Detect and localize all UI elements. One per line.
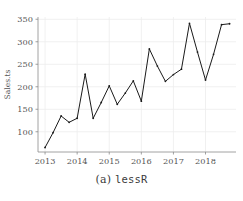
data-point bbox=[205, 79, 207, 81]
x-tick-label: 2016 bbox=[131, 156, 152, 166]
caption-prefix: (a) bbox=[95, 173, 111, 186]
data-point bbox=[156, 65, 158, 67]
data-point bbox=[197, 51, 199, 53]
y-tick-label: 300 bbox=[17, 37, 33, 47]
data-point bbox=[213, 53, 215, 55]
data-point bbox=[76, 117, 78, 119]
data-point bbox=[189, 22, 191, 24]
x-tick-label: 2013 bbox=[35, 156, 56, 166]
data-point bbox=[148, 48, 150, 50]
line-chart: 1001502002503003502013201420152016201720… bbox=[0, 0, 243, 170]
data-point bbox=[60, 115, 62, 117]
data-point bbox=[100, 102, 102, 104]
data-point bbox=[92, 117, 94, 119]
data-point bbox=[229, 23, 231, 25]
data-point bbox=[140, 100, 142, 102]
axis-titles-group: Sales.ts bbox=[3, 69, 12, 99]
x-tick-label: 2015 bbox=[99, 156, 120, 166]
data-point bbox=[173, 74, 175, 76]
y-tick-label: 250 bbox=[17, 59, 33, 69]
y-tick-label: 150 bbox=[17, 104, 33, 114]
data-point bbox=[108, 85, 110, 87]
y-tick-label: 200 bbox=[17, 82, 33, 92]
y-axis-title: Sales.ts bbox=[3, 69, 12, 99]
series-group bbox=[44, 22, 230, 148]
y-tick-label: 350 bbox=[17, 14, 33, 24]
caption-package-name: lessR bbox=[115, 173, 148, 185]
data-point bbox=[132, 80, 134, 82]
data-point bbox=[124, 92, 126, 94]
data-point bbox=[116, 103, 118, 105]
data-point bbox=[44, 147, 46, 149]
figure-container: 1001502002503003502013201420152016201720… bbox=[0, 0, 243, 201]
data-point bbox=[52, 132, 54, 134]
chart-svg: 1001502002503003502013201420152016201720… bbox=[0, 0, 243, 170]
y-tick-label: 100 bbox=[17, 127, 33, 137]
data-point bbox=[221, 24, 223, 26]
data-point bbox=[165, 80, 167, 82]
data-point bbox=[181, 68, 183, 70]
figure-caption: (a) lessR bbox=[0, 173, 243, 186]
x-tick-label: 2017 bbox=[163, 156, 184, 166]
data-point bbox=[84, 73, 86, 75]
x-tick-label: 2018 bbox=[195, 156, 216, 166]
x-tick-label: 2014 bbox=[67, 156, 88, 166]
data-point bbox=[68, 121, 70, 123]
gridlines-group bbox=[38, 17, 236, 152]
